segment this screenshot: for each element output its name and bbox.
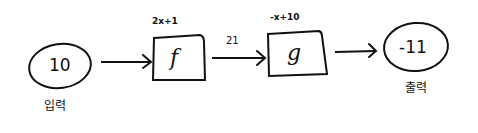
edge-label-f-to-g: 21 (226, 36, 239, 46)
g-rule: -x+10 (270, 13, 300, 22)
output-value: -11 (399, 39, 427, 56)
output-caption: 출력 (405, 82, 427, 94)
diagram-canvas (0, 0, 478, 133)
g-name: g (287, 42, 301, 64)
arrow-f-to-g (212, 51, 265, 65)
arrow-g-to-output (335, 44, 376, 57)
f-rule: 2x+1 (152, 17, 178, 26)
input-caption: 입력 (44, 100, 66, 112)
arrow-input-to-f (101, 55, 151, 68)
f-name: f (170, 47, 178, 69)
f-box (153, 35, 205, 80)
input-value: 10 (49, 57, 71, 74)
